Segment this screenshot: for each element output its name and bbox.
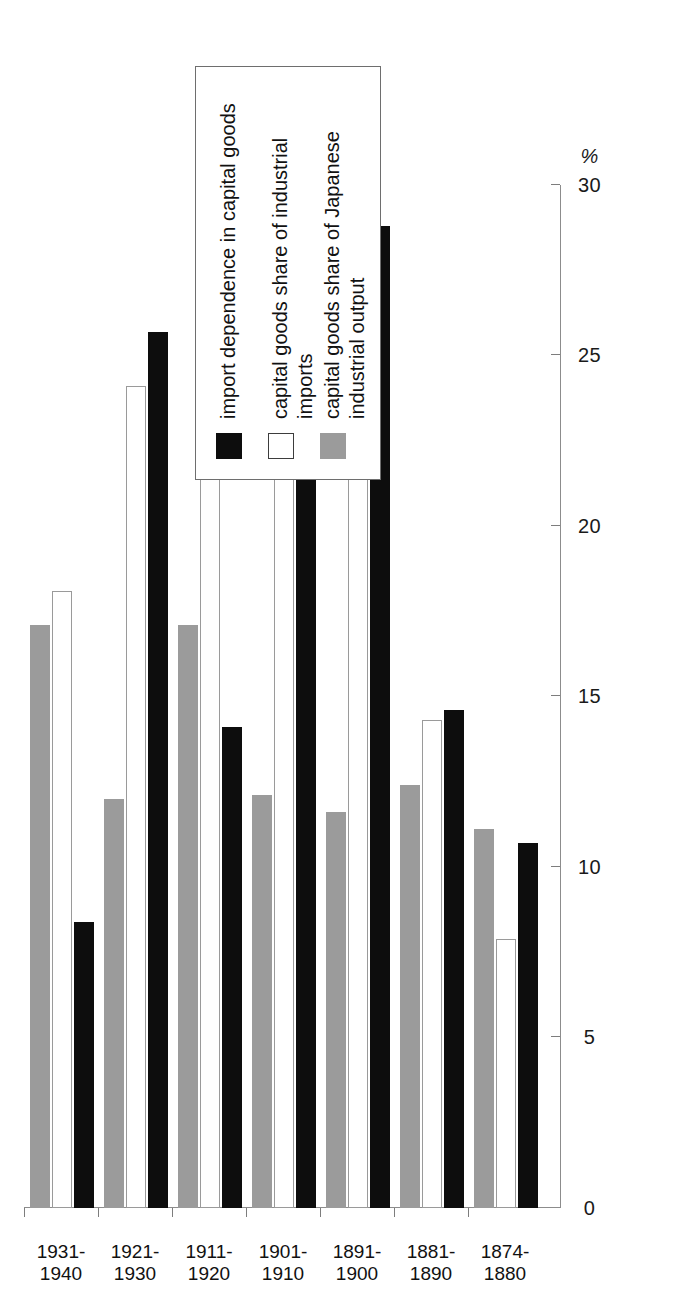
bar-gray-1921-1930 xyxy=(104,799,124,1208)
legend-swatch-black-icon xyxy=(216,433,242,459)
bar-gray-1881-1890 xyxy=(400,785,420,1208)
bar-gray-1931-1940 xyxy=(30,625,50,1208)
bar-gray-1874-1880 xyxy=(474,829,494,1208)
bar-white-1874-1880 xyxy=(496,939,516,1208)
legend-item-0: import dependence in capital goods xyxy=(216,83,242,459)
bar-black-1911-1920 xyxy=(222,727,242,1208)
bar-black-1931-1940 xyxy=(74,922,94,1208)
bar-black-1874-1880 xyxy=(518,843,538,1208)
value-axis-tick xyxy=(551,866,560,867)
bar-black-1881-1890 xyxy=(444,710,464,1208)
legend-label-2: capital goods share of Japanese industri… xyxy=(320,131,370,419)
bar-white-1901-1910 xyxy=(274,417,294,1208)
category-axis-tick xyxy=(320,1208,321,1217)
legend-label-1: capital goods share of industrial import… xyxy=(268,83,318,419)
value-axis-tick-label: 15 xyxy=(576,685,604,708)
value-axis-tick xyxy=(551,695,560,696)
value-axis-tick xyxy=(551,184,560,185)
value-axis-line xyxy=(560,185,561,1208)
bar-gray-1911-1920 xyxy=(178,625,198,1208)
value-axis-tick-label: 30 xyxy=(576,173,604,196)
category-label-1931-1940: 1931-1940 xyxy=(6,1241,116,1285)
legend-item-2: capital goods share of Japanese industri… xyxy=(320,83,370,459)
value-axis-tick-label: 10 xyxy=(576,855,604,878)
value-axis-tick xyxy=(551,1036,560,1037)
category-axis-tick xyxy=(172,1208,173,1217)
rotated-figure-stage: 051015202530%1874-18801881-18901891-1900… xyxy=(0,0,674,1308)
chart-page: 051015202530%1874-18801881-18901891-1900… xyxy=(0,0,674,1308)
bar-gray-1891-1900 xyxy=(326,812,346,1208)
category-axis-tick xyxy=(98,1208,99,1217)
value-axis-tick xyxy=(551,525,560,526)
bar-white-1881-1890 xyxy=(422,720,442,1208)
bar-white-1911-1920 xyxy=(200,447,220,1208)
bar-gray-1901-1910 xyxy=(252,795,272,1208)
bar-white-1891-1900 xyxy=(348,383,368,1208)
legend-item-1: capital goods share of industrial import… xyxy=(268,83,318,459)
bar-white-1931-1940 xyxy=(52,591,72,1208)
legend-label-0: import dependence in capital goods xyxy=(216,103,241,419)
axis-title-percent: % xyxy=(581,144,599,167)
legend-swatch-white-icon xyxy=(268,433,294,459)
chart-legend: import dependence in capital goods capit… xyxy=(195,66,381,480)
value-axis-tick-label: 0 xyxy=(576,1197,604,1220)
category-axis-tick xyxy=(24,1208,25,1217)
category-axis-tick xyxy=(468,1208,469,1217)
legend-swatch-gray-icon xyxy=(320,433,346,459)
value-axis-tick-label: 5 xyxy=(576,1026,604,1049)
value-axis-tick-label: 20 xyxy=(576,514,604,537)
bar-white-1921-1930 xyxy=(126,386,146,1208)
value-axis-tick xyxy=(551,354,560,355)
bar-black-1921-1930 xyxy=(148,332,168,1208)
value-axis-tick-label: 25 xyxy=(576,344,604,367)
category-axis-tick xyxy=(394,1208,395,1217)
category-axis-tick xyxy=(246,1208,247,1217)
